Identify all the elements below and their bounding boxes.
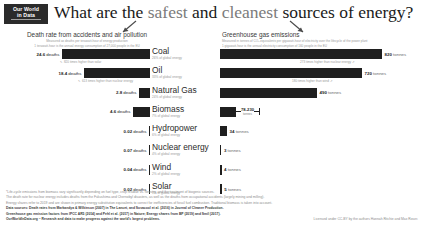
energy-name: Wind [152,163,180,171]
ghg-bar-wind [220,165,222,175]
logo-line-2: in Data [17,13,35,18]
ghg-value-coal: 820 tonnes [385,52,407,57]
ghg-bar-natural-gas [220,88,317,98]
energy-share: 4% of global energy [152,152,209,156]
energy-share: 6% of global energy [152,133,197,137]
ghg-bar-group-coal: 820 tonnes [220,49,406,59]
death-bar-group-nuclear: 0.07 deaths [124,145,150,155]
right-panel-header: Greenhouse gas emissions Measured in ton… [222,31,367,48]
footer-bottom-row: OurWorldInData.org – Research and data t… [6,217,418,222]
energy-label-oil: Oil 33% of global energy [152,66,182,79]
right-cell-nuclear: 3 tonnes [212,143,424,162]
right-cell-hydropower: 34 tonnes [212,124,424,143]
death-value-hydropower: 0.02 deaths [124,129,147,134]
death-bar-group-natural-gas: 2.8 deaths [116,88,150,98]
death-value-oil: 18.4 deaths [59,71,82,76]
death-value-wind: 0.04 deaths [124,167,147,172]
right-panel-title: Greenhouse gas emissions [222,31,367,38]
energy-share: 33% of global energy [152,75,182,79]
ghg-bar-group-oil: 720 tonnes [220,68,386,78]
energy-label-biomass: Biomass 7% of global energy [152,105,184,118]
ghg-bar-group-nuclear: 3 tonnes [220,145,241,155]
death-bar-coal [62,49,150,59]
right-cell-coal: 820 tonnes 273 times higher than nuclear… [212,47,424,66]
right-cell-oil: 720 tonnes 180 times higher than wind ↗ [212,66,424,85]
energy-name: Natural Gas [152,86,197,94]
energy-label-natural-gas: Natural Gas 24% of global energy [152,86,197,99]
ghg-value-nuclear: 3 tonnes [224,148,241,153]
death-bar-nuclear [149,145,150,155]
death-bar-group-oil: 18.4 deaths [59,68,150,78]
owid-logo: Our World in Data [4,4,48,24]
ghg-value-natural-gas: 490 tonnes [320,90,342,95]
ghg-bar-coal [220,49,382,59]
death-value-natural-gas: 2.8 deaths [116,90,137,95]
logo-divider [11,19,41,20]
energy-name: Biomass [152,105,184,113]
title-pre: What are the [54,2,148,22]
ghg-bar-group-hydropower: 34 tonnes [220,126,249,136]
death-value-coal: 24.6 deaths [37,52,60,57]
table-row: 18.4 deaths ↖ 613 times higher than nucl… [0,66,424,85]
energy-name: Nuclear energy [152,143,209,151]
death-bar-natural-gas [139,88,150,98]
ghg-bar-group-biomass: 78-230tonnes [220,107,260,117]
energy-share: 24% of global energy [152,95,197,99]
title-cleanest: cleanest [222,2,278,22]
page-title: What are the safest and cleanest sources… [54,2,413,23]
energy-name: Coal [152,47,182,55]
energy-name: Oil [152,66,182,74]
ghg-value-wind: 4 tonnes [224,167,241,172]
annotation-oil-death: ↖ 613 times higher than nuclear energy [78,79,133,83]
annotation-oil-ghg: 180 times higher than wind ↗ [292,79,333,83]
table-row: 0.02 deaths Hydropower 6% of global ener… [0,124,424,143]
ghg-bar-nuclear [220,145,221,155]
death-value-nuclear: 0.07 deaths [124,148,147,153]
chart-rows: 24.6 deaths ↖ 820 times higher than sola… [0,47,424,201]
title-safest: safest [148,2,188,22]
death-bar-group-hydropower: 0.02 deaths [124,126,150,136]
title-post: sources of energy? [278,2,413,22]
right-cell-natural-gas: 490 tonnes [212,86,424,105]
right-cell-biomass: 78-230tonnes [212,105,424,124]
right-cell-wind: 4 tonnes [212,163,424,182]
left-cell-wind: 0.04 deaths [0,163,212,182]
ghg-value-biomass: 78-230tonnes [241,108,254,116]
ghg-value-oil: 720 tonnes [365,71,387,76]
annotation-coal-death: ↖ 820 times higher than solar [60,60,101,64]
death-value-biomass: 4.6 deaths [110,109,131,114]
energy-share: 26% of global energy [152,56,182,60]
right-panel-subtitle-1: Measured in tonnes of CO₂-equivalents pe… [222,39,367,44]
death-bar-biomass [133,107,150,117]
table-row: 0.07 deaths Nuclear energy 4% of global … [0,143,424,162]
ghg-bar-oil [220,68,362,78]
death-bar-wind [149,165,150,175]
energy-label-wind: Wind 2% of global energy [152,163,180,176]
death-bar-hydropower [149,126,150,136]
ghg-bar-biomass [220,107,236,117]
ghg-bar-hydropower [220,126,227,136]
energy-label-nuclear: Nuclear energy 4% of global energy [152,143,209,156]
table-row: 0.04 deaths Wind 2% of global energy 4 t… [0,163,424,182]
ghg-value-hydropower: 34 tonnes [230,129,249,134]
energy-share: 2% of global energy [152,172,180,176]
title-mid: and [188,2,222,22]
footer: *Life-cycle emissions from biomass vary … [6,190,418,222]
left-panel-title: Death rate from accidents and air pollut… [27,31,147,38]
ghg-error-bar-biomass: 78-230tonnes [236,107,260,117]
site-credit[interactable]: OurWorldInData.org – Research and data t… [6,217,160,222]
energy-share: 7% of global energy [152,114,184,118]
annotation-coal-ghg: 273 times higher than nuclear energy ↗ [300,60,355,64]
table-row: 2.8 deaths Natural Gas 24% of global ene… [0,86,424,105]
energy-label-coal: Coal 26% of global energy [152,47,182,60]
death-bar-group-coal: 24.6 deaths [37,49,150,59]
license-text: Licensed under CC-BY by the authors Hann… [314,217,418,222]
table-row: 24.6 deaths ↖ 820 times higher than sola… [0,47,424,66]
death-bar-oil [84,68,150,78]
ghg-bar-group-wind: 4 tonnes [220,165,241,175]
table-row: 4.6 deaths Biomass 7% of global energy 7… [0,105,424,124]
death-bar-group-biomass: 4.6 deaths [110,107,150,117]
energy-name: Hydropower [152,124,197,132]
left-panel-header: Death rate from accidents and air pollut… [27,31,147,48]
energy-label-hydropower: Hydropower 6% of global energy [152,124,197,137]
